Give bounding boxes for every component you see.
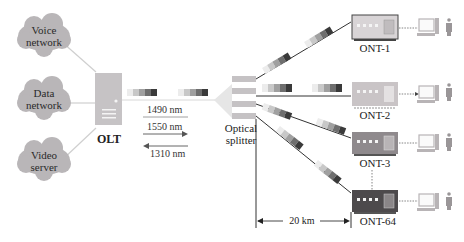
user-icon (446, 18, 452, 36)
packet-group (314, 160, 342, 184)
wavelength-1310: 1310 nm (150, 148, 185, 159)
packet-group (304, 27, 333, 48)
packet-group (316, 118, 347, 135)
packet-group (262, 53, 291, 74)
ont-2-label: ONT-2 (352, 109, 398, 121)
computer-icon (417, 193, 439, 211)
olt-label: OLT (92, 133, 126, 145)
computer-icon (417, 134, 439, 152)
user-icon (446, 83, 452, 101)
packet-group (178, 89, 208, 96)
ont-3-label: ONT-3 (352, 157, 398, 169)
computer-icon (417, 85, 439, 103)
packet-group (127, 89, 157, 96)
ont-device-icon (352, 15, 398, 41)
ont-1-label: ONT-1 (352, 42, 398, 54)
packet-group (262, 103, 293, 120)
splitter-label: Optical splitter (220, 122, 262, 146)
distance-label: 20 km (284, 215, 320, 227)
ont-64-label: ONT-64 (354, 215, 402, 227)
cloud-label-voice: Voice network (18, 24, 70, 48)
wavelength-1550: 1550 nm (147, 121, 182, 132)
ont-device-icon (352, 132, 398, 156)
computer-icon (417, 18, 439, 36)
olt-server-icon (95, 73, 122, 125)
user-icon (446, 192, 452, 210)
ont-device-icon (352, 190, 398, 214)
optical-splitter-icon (214, 76, 256, 119)
packet-group (312, 84, 342, 92)
packet-group (262, 84, 292, 92)
user-icon (446, 133, 452, 151)
cloud-label-video: Video server (18, 149, 70, 173)
packet-group (276, 126, 304, 150)
cloud-label-data: Data network (18, 87, 70, 111)
wavelength-1490: 1490 nm (147, 104, 182, 115)
ont-device-icon (352, 82, 398, 108)
